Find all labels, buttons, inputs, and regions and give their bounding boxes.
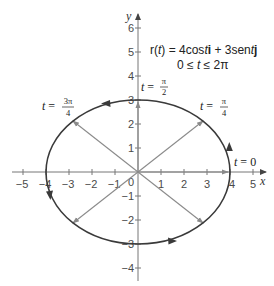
svg-text:4: 4 [66, 108, 71, 118]
arrow-up-icon [226, 142, 233, 151]
equation: r(t) = 4costi + 3sentj 0 ≤ t ≤ 2π [150, 43, 257, 72]
label-t-pi-2: t = π 2 [141, 76, 168, 97]
svg-text:2: 2 [181, 178, 187, 190]
svg-text:π: π [162, 76, 167, 86]
svg-text:π: π [222, 96, 227, 106]
x-tick-labels: −5 −4 −3 −2 −1 1 2 3 4 5 [16, 178, 256, 190]
position-vectors [73, 102, 228, 223]
svg-text:3: 3 [204, 178, 210, 190]
vector-t-pi-4 [138, 121, 203, 172]
svg-text:−4: −4 [121, 262, 134, 274]
svg-text:4: 4 [222, 108, 227, 118]
label-t-3pi-4: t = 3π 4 [42, 96, 74, 118]
svg-text:5: 5 [250, 178, 256, 190]
svg-text:0 ≤ t ≤ 2π: 0 ≤ t ≤ 2π [177, 58, 229, 72]
svg-text:−1: −1 [121, 190, 134, 202]
x-axis-label: x [259, 174, 266, 188]
svg-text:−2: −2 [85, 178, 98, 190]
svg-text:3π: 3π [64, 96, 73, 106]
y-axis-label: y [125, 9, 132, 23]
svg-text:4: 4 [128, 70, 134, 82]
vector-t-7pi-4 [138, 172, 203, 223]
svg-text:1: 1 [128, 142, 134, 154]
svg-text:2: 2 [128, 118, 134, 130]
svg-text:t =: t = [42, 99, 55, 113]
svg-text:5: 5 [128, 46, 134, 58]
label-t-pi-4: t = π 4 [200, 96, 228, 118]
svg-text:−3: −3 [62, 178, 75, 190]
svg-text:t =: t = [141, 80, 154, 94]
svg-text:r(t) = 4costi + 3sentj: r(t) = 4costi + 3sentj [150, 43, 257, 57]
svg-text:−4: −4 [39, 178, 52, 190]
svg-text:2: 2 [162, 87, 166, 97]
svg-text:−1: −1 [108, 178, 121, 190]
svg-text:−2: −2 [121, 214, 134, 226]
label-t-0: t = 0 [234, 155, 256, 169]
svg-text:−5: −5 [16, 178, 29, 190]
svg-text:6: 6 [128, 22, 134, 34]
parametric-ellipse-chart: −5 −4 −3 −2 −1 1 2 3 4 5 0 6 5 4 3 2 1 −… [0, 0, 274, 286]
svg-text:t =: t = [200, 99, 213, 113]
y-tick-labels: 6 5 4 3 2 1 −1 −2 −3 −4 [121, 22, 134, 274]
